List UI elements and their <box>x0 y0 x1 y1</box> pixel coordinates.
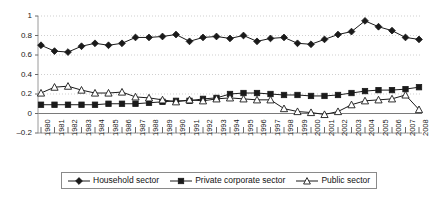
data-point-triangle <box>280 105 287 112</box>
data-point-triangle <box>402 91 409 98</box>
data-point-diamond <box>267 35 274 42</box>
data-point-square <box>376 87 381 92</box>
x-tick-label: 1994 <box>233 119 241 136</box>
legend-item[interactable]: Private corporate sector <box>170 176 285 186</box>
data-point-diamond <box>51 48 58 55</box>
x-tick-label: 1990 <box>179 119 187 136</box>
x-tick-label: 1987 <box>139 119 147 136</box>
legend-marker-diamond-icon <box>68 176 90 186</box>
data-point-diamond <box>335 31 342 38</box>
series-household-sector <box>38 17 423 55</box>
x-tick-label: 1999 <box>301 119 309 136</box>
data-point-diamond <box>321 36 328 43</box>
data-point-diamond <box>240 32 247 39</box>
legend-item[interactable]: Public sector <box>296 176 370 186</box>
data-point-square <box>281 92 286 97</box>
y-tick-label: 0.8 <box>2 32 32 40</box>
y-axis: 10.80.60.40.20–0.2 <box>0 0 32 199</box>
x-tick-label: 1980 <box>44 119 52 136</box>
x-tick-label: 1997 <box>274 119 282 136</box>
x-tick-label: 2006 <box>395 119 403 136</box>
data-point-diamond <box>308 41 315 48</box>
x-tick-label: 2007 <box>409 119 417 136</box>
data-point-square <box>106 101 111 106</box>
data-point-square <box>92 102 97 107</box>
x-tick-label: 1998 <box>287 119 295 136</box>
data-point-square <box>119 101 124 106</box>
data-point-diamond <box>119 40 126 47</box>
data-point-square <box>416 84 421 89</box>
data-point-square <box>254 90 259 95</box>
x-tick-label: 1995 <box>247 119 255 136</box>
y-tick-label: 0.4 <box>2 71 32 79</box>
data-point-diamond <box>375 23 382 30</box>
data-point-square <box>52 102 57 107</box>
x-tick-label: 1983 <box>85 119 93 136</box>
x-tick-label: 1989 <box>166 119 174 136</box>
x-tick-label: 2004 <box>368 119 376 136</box>
x-tick-label: 2002 <box>341 119 349 136</box>
x-tick-label: 1981 <box>58 119 66 136</box>
data-point-diamond <box>38 42 45 49</box>
data-point-square <box>38 102 43 107</box>
data-point-square <box>335 92 340 97</box>
x-tick-label: 2008 <box>422 119 430 136</box>
y-tick-label: 0.6 <box>2 51 32 59</box>
data-point-square <box>79 102 84 107</box>
x-tick-label: 2000 <box>314 119 322 136</box>
x-tick-label: 2005 <box>382 119 390 136</box>
data-point-diamond <box>389 27 396 34</box>
data-point-square <box>133 101 138 106</box>
data-point-diamond <box>105 42 112 49</box>
x-tick-label: 1991 <box>193 119 201 136</box>
legend-item[interactable]: Household sector <box>68 176 159 186</box>
y-tick-label: 0.2 <box>2 90 32 98</box>
x-tick-label: 1982 <box>71 119 79 136</box>
legend-marker-shape <box>178 178 183 183</box>
y-tick-label: 0 <box>2 110 32 118</box>
x-tick-label: 2003 <box>355 119 363 136</box>
data-point-diamond <box>173 31 180 38</box>
x-tick-label: 1985 <box>112 119 120 136</box>
data-point-square <box>349 90 354 95</box>
data-point-diamond <box>254 38 261 45</box>
data-point-square <box>322 93 327 98</box>
data-point-square <box>295 92 300 97</box>
legend-label: Household sector <box>93 176 159 185</box>
x-tick-label: 1992 <box>206 119 214 136</box>
x-tick-label: 1993 <box>220 119 228 136</box>
legend-label: Public sector <box>321 176 370 185</box>
data-point-square <box>362 88 367 93</box>
x-tick-label: 1988 <box>152 119 160 136</box>
data-point-square <box>65 102 70 107</box>
x-tick-label: 2001 <box>328 119 336 136</box>
data-point-diamond <box>186 38 193 45</box>
y-tick-label: –0.2 <box>2 129 32 137</box>
legend-marker-shape <box>76 177 83 184</box>
data-point-diamond <box>159 33 166 40</box>
data-point-diamond <box>78 43 85 50</box>
data-point-diamond <box>92 40 99 47</box>
data-point-diamond <box>294 40 301 47</box>
data-point-diamond <box>65 49 72 56</box>
data-point-diamond <box>227 35 234 42</box>
x-tick-label: 1996 <box>260 119 268 136</box>
data-point-diamond <box>213 33 220 40</box>
legend-label: Private corporate sector <box>195 176 285 185</box>
data-point-square <box>389 87 394 92</box>
data-point-square <box>308 93 313 98</box>
y-tick-label: 1 <box>2 12 32 20</box>
x-tick-label: 1984 <box>98 119 106 136</box>
legend-marker-square-icon <box>170 176 192 186</box>
chart-legend: Household sectorPrivate corporate sector… <box>61 172 377 189</box>
data-point-diamond <box>416 36 423 43</box>
legend-marker-triangle-icon <box>296 176 318 186</box>
x-tick-label: 1986 <box>125 119 133 136</box>
data-point-triangle <box>334 108 341 115</box>
series-public-sector <box>37 83 422 118</box>
